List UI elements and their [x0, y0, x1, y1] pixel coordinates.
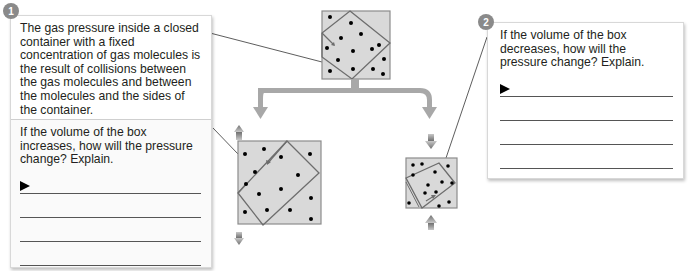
answer-line[interactable] [20, 177, 201, 194]
answer-line[interactable] [500, 97, 673, 121]
arrow-down-icon [425, 141, 437, 149]
panel-1-card: The gas pressure inside a closed contain… [10, 15, 212, 268]
step-badge-2: 2 [478, 14, 494, 30]
intro-text: The gas pressure inside a closed contain… [11, 16, 211, 119]
panel-2-card: If the volume of the box decreases, how … [487, 22, 684, 179]
question-1-text: If the volume of the box increases, how … [20, 126, 201, 167]
answer-line[interactable] [20, 218, 201, 242]
arrow-bullet-icon [20, 181, 30, 191]
answer-line[interactable] [500, 121, 673, 145]
answer-line[interactable] [500, 145, 673, 169]
answer-area-1[interactable] [20, 177, 201, 266]
question-2-text: If the volume of the box decreases, how … [500, 29, 673, 70]
leader-line-3 [446, 37, 487, 158]
answer-line[interactable] [20, 194, 201, 218]
arrow-bullet-icon [500, 84, 510, 94]
arrow-up-icon [425, 215, 437, 223]
original-container [322, 11, 390, 79]
step-badge-1: 1 [3, 3, 19, 19]
expanded-container [234, 125, 321, 245]
arrow-up-icon [234, 125, 244, 132]
question-1-section: If the volume of the box increases, how … [11, 119, 211, 267]
answer-line[interactable] [500, 80, 673, 97]
fork-arrow [253, 79, 437, 119]
answer-area-2[interactable] [500, 80, 673, 169]
arrow-down-icon [234, 238, 244, 245]
answer-line[interactable] [20, 242, 201, 266]
leader-line-1 [210, 33, 322, 62]
